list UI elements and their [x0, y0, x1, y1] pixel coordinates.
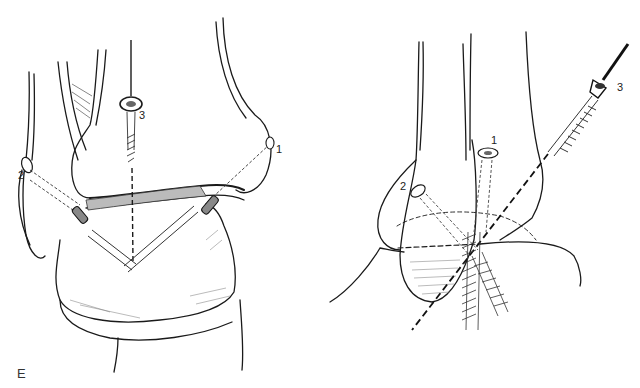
- lateral-ankle-drawing: [0, 0, 640, 388]
- left-label-screw-3: 3: [139, 110, 145, 121]
- medical-illustration-figure: 3 2 1 1 2 3 E: [0, 0, 640, 388]
- right-label-screw-2: 2: [400, 181, 406, 192]
- guide-wire: [603, 44, 628, 80]
- screw-3-head-icon: [590, 80, 606, 98]
- panel-label: E: [17, 366, 26, 381]
- right-label-screw-3: 3: [617, 82, 623, 93]
- right-label-screw-1: 1: [491, 135, 497, 146]
- left-label-screw-1: 1: [276, 144, 282, 155]
- left-label-screw-2: 2: [18, 170, 24, 181]
